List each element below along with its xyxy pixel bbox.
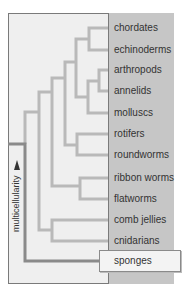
taxon-label: arthropods	[114, 64, 162, 76]
highlighted-taxon-box: sponges	[99, 250, 181, 272]
branch-ribbonworms-flatworms	[80, 178, 108, 199]
taxon-label: chordates	[114, 22, 158, 34]
taxon-label: molluscs	[114, 107, 153, 119]
multicellularity-label: multicellularity	[11, 175, 22, 232]
branch-j	[39, 92, 52, 230]
taxon-label: rotifers	[114, 128, 145, 140]
taxon-label: roundworms	[114, 149, 169, 161]
branch-arthropods-annelids	[99, 70, 108, 91]
taxon-label: cnidarians	[114, 235, 160, 247]
taxon-label: annelids	[114, 85, 151, 97]
taxon-label: comb jellies	[114, 214, 166, 226]
branch-chordates-echinoderms	[89, 28, 108, 50]
taxon-label-sponges: sponges	[114, 255, 152, 267]
taxon-label: flatworms	[114, 193, 157, 205]
cladogram: multicellularity chordates echinoderms a…	[0, 0, 196, 291]
branch-rotifers-roundworms	[77, 134, 108, 155]
taxon-label: ribbon worms	[114, 172, 174, 184]
multicellularity-arrow-icon	[14, 160, 20, 170]
branch-combjellies-cnidarians	[52, 220, 108, 241]
taxon-label: echinoderms	[114, 44, 171, 56]
branch-k-upper	[25, 112, 39, 144]
